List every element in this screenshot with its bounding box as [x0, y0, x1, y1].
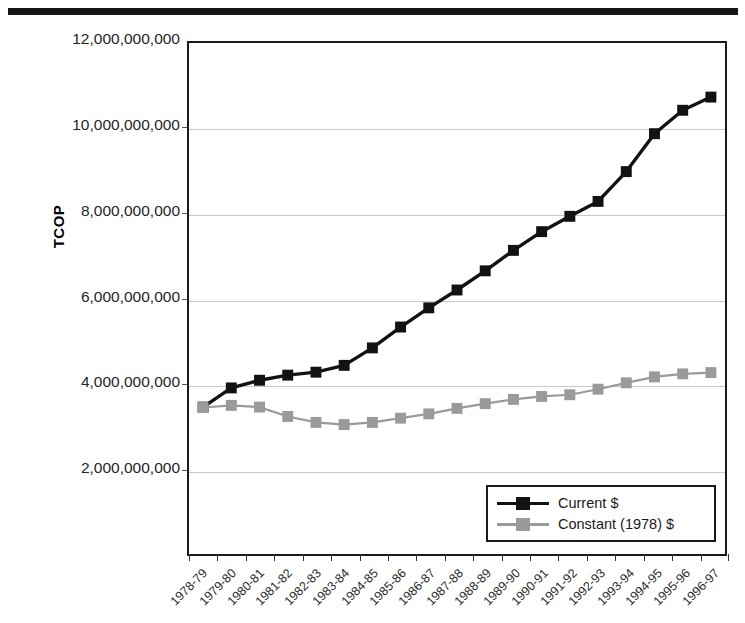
series-marker: [621, 377, 632, 388]
series-line: [203, 97, 711, 407]
legend-swatch-constant-icon: [497, 517, 549, 531]
series-marker: [649, 128, 660, 139]
series-marker: [677, 105, 688, 116]
series-marker: [705, 367, 716, 378]
series-marker: [395, 322, 406, 333]
series-marker: [677, 368, 688, 379]
x-tick-mark: [274, 554, 275, 561]
series-marker: [282, 370, 293, 381]
series-marker: [339, 419, 350, 430]
series-marker: [310, 417, 321, 428]
series-marker: [452, 285, 463, 296]
series-marker: [254, 375, 265, 386]
x-tick-mark: [445, 554, 446, 561]
legend-label-current: Current $: [558, 495, 618, 511]
series-marker: [198, 402, 209, 413]
x-tick-mark: [416, 554, 417, 561]
series-marker: [282, 411, 293, 422]
series-marker: [480, 398, 491, 409]
x-tick-mark: [644, 554, 645, 561]
legend-item-constant: Constant (1978) $: [497, 513, 705, 534]
x-tick-mark: [360, 554, 361, 561]
x-tick-mark: [303, 554, 304, 561]
x-tick-mark: [672, 554, 673, 561]
line-chart-figure: TCOP 12,000,000,00010,000,000,0008,000,0…: [0, 0, 745, 623]
x-tick-mark: [701, 554, 702, 561]
y-tick-label: 4,000,000,000: [28, 373, 180, 391]
series-line: [203, 373, 711, 425]
series-marker: [254, 402, 265, 413]
series-marker: [593, 196, 604, 207]
series-marker: [536, 226, 547, 237]
series-marker: [367, 417, 378, 428]
x-tick-mark: [587, 554, 588, 561]
x-tick-mark: [189, 554, 190, 561]
y-tick-label: 8,000,000,000: [28, 202, 180, 220]
series-marker: [423, 408, 434, 419]
x-tick-mark: [388, 554, 389, 561]
series-marker: [649, 371, 660, 382]
series-marker: [564, 389, 575, 400]
series-marker: [536, 391, 547, 402]
series-marker: [339, 360, 350, 371]
legend: Current $ Constant (1978) $: [486, 485, 716, 542]
legend-label-constant: Constant (1978) $: [558, 516, 674, 532]
series-layer: [189, 43, 725, 554]
y-tick-label: 12,000,000,000: [28, 30, 180, 48]
chart-page: TCOP 12,000,000,00010,000,000,0008,000,0…: [0, 0, 745, 623]
legend-item-current: Current $: [497, 492, 705, 513]
series-marker: [508, 245, 519, 256]
series-marker: [564, 211, 575, 222]
y-tick-label: 10,000,000,000: [28, 116, 180, 134]
x-tick-mark: [615, 554, 616, 561]
x-tick-mark: [331, 554, 332, 561]
series-marker: [226, 400, 237, 411]
x-tick-mark: [246, 554, 247, 561]
plot-area: Current $ Constant (1978) $: [187, 41, 727, 556]
series-marker: [423, 302, 434, 313]
series-marker: [705, 92, 716, 103]
series-marker: [310, 367, 321, 378]
series-marker: [452, 403, 463, 414]
series-marker: [226, 382, 237, 393]
y-tick-label: 6,000,000,000: [28, 288, 180, 306]
series-marker: [621, 166, 632, 177]
x-tick-mark: [728, 554, 729, 561]
x-tick-mark: [502, 554, 503, 561]
series-marker: [367, 342, 378, 353]
series-marker: [593, 384, 604, 395]
series-marker: [395, 413, 406, 424]
y-axis-title: TCOP: [50, 167, 67, 287]
x-tick-mark: [558, 554, 559, 561]
series-marker: [508, 394, 519, 405]
x-tick-mark: [217, 554, 218, 561]
series-marker: [480, 265, 491, 276]
x-tick-mark: [473, 554, 474, 561]
legend-swatch-current-icon: [497, 496, 549, 510]
y-tick-label: 2,000,000,000: [28, 459, 180, 477]
x-tick-mark: [530, 554, 531, 561]
